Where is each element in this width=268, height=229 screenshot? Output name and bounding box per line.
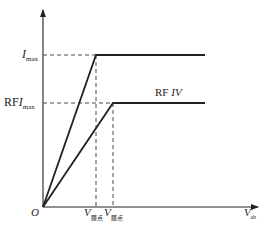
dc-curve [43,55,205,207]
rf-curve-label: RF IV [155,86,183,98]
rfimax-label: RFImax [4,95,35,111]
vds-label: Vds [244,206,257,220]
iv-characteristic-diagram: Imax RFImax RF IV O V膝点 V膝点 Vds [0,0,268,229]
dashed-guides [43,55,113,207]
origin-label: O [31,206,39,218]
knee1-label: V膝点 [84,206,103,222]
imax-label: Imax [21,47,39,63]
knee2-label: V膝点 [104,206,123,222]
rf-curve [43,103,205,207]
